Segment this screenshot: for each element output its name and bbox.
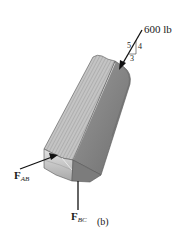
fbc-label: FBC — [71, 210, 87, 224]
figure-caption: (b) — [97, 216, 109, 227]
slope-vertical-label: 4 — [138, 42, 142, 51]
slope-hypotenuse-label: 5 — [127, 41, 131, 50]
load-label: 600 lb — [144, 23, 172, 35]
free-body-diagram — [0, 0, 189, 245]
slope-horizontal-label: 3 — [130, 54, 134, 63]
fab-label: FAB — [14, 169, 29, 183]
